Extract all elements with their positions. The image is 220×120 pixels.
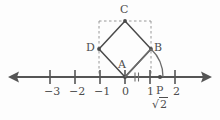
radical-sign-icon: √ [152, 99, 159, 110]
axis-tick-label-neg1: −1 [94, 86, 110, 97]
radicand-value: 2 [159, 97, 168, 111]
axis-tick-label-neg3: −3 [44, 86, 60, 97]
vertex-label-a: A [118, 59, 126, 70]
vertex-label-c: C [120, 4, 128, 15]
radical-expression: √2 [152, 99, 168, 110]
axis-tick-label-1: 1 [147, 86, 154, 97]
point-p-label: P [156, 85, 163, 96]
point-p-dot [158, 75, 162, 79]
axis-tick-label-2: 2 [173, 86, 180, 97]
figure-canvas [0, 0, 220, 120]
vertex-dot-c [123, 19, 127, 23]
geometry-figure: −3 −2 −1 0 1 2 A B C D P √2 [0, 0, 220, 120]
vertex-label-b: B [154, 42, 162, 53]
axis-tick-label-0: 0 [122, 86, 129, 97]
number-line-axis [8, 70, 212, 84]
vertex-dot-d [97, 47, 101, 51]
vertex-label-d: D [86, 42, 95, 53]
axis-tick-label-neg2: −2 [69, 86, 85, 97]
point-p-value-sqrt2: √2 [152, 99, 168, 110]
